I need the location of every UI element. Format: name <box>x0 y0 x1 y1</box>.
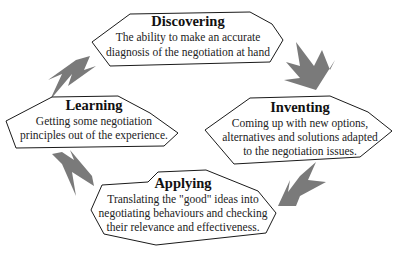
stage-description-line: The ability to make an accurate <box>116 31 261 44</box>
stage-description-line: alternatives and solutions adapted <box>222 131 378 144</box>
stage-description-line: their relevance and effectiveness. <box>106 221 259 233</box>
stage-title: Inventing <box>270 99 330 115</box>
arrow-learning-to-discovering <box>48 56 96 100</box>
stage-title: Learning <box>65 97 123 113</box>
stage-description-line: Translating the "good" ideas into <box>107 193 259 206</box>
stage-applying: Applying Translating the "good" ideas in… <box>91 170 276 245</box>
arrow-discovering-to-inventing <box>284 42 335 90</box>
arrow-inventing-to-applying <box>278 162 326 206</box>
stage-description-line: to the negotiation issues. <box>243 145 357 158</box>
stage-title: Discovering <box>151 13 225 29</box>
stage-description-line: negotiating behaviours and checking <box>99 207 268 220</box>
arrow-icon <box>52 150 94 196</box>
stage-learning: Learning Getting some negotiation princi… <box>6 96 178 148</box>
arrow-icon <box>278 162 326 206</box>
stage-description-line: Coming up with new options, <box>232 117 369 130</box>
negotiation-cycle-diagram: Discovering The ability to make an accur… <box>0 0 409 259</box>
stage-description-line: principles out of the experience. <box>20 129 168 142</box>
stage-description-line: diagnosis of the negotiation at hand <box>106 46 270 59</box>
stage-discovering: Discovering The ability to make an accur… <box>92 12 283 66</box>
arrow-icon <box>48 56 96 100</box>
arrow-icon <box>284 42 335 90</box>
stage-description-line: Getting some negotiation <box>36 115 153 128</box>
arrow-applying-to-learning <box>52 150 94 196</box>
stage-title: Applying <box>154 175 212 191</box>
stage-inventing: Inventing Coming up with new options, al… <box>205 96 392 164</box>
